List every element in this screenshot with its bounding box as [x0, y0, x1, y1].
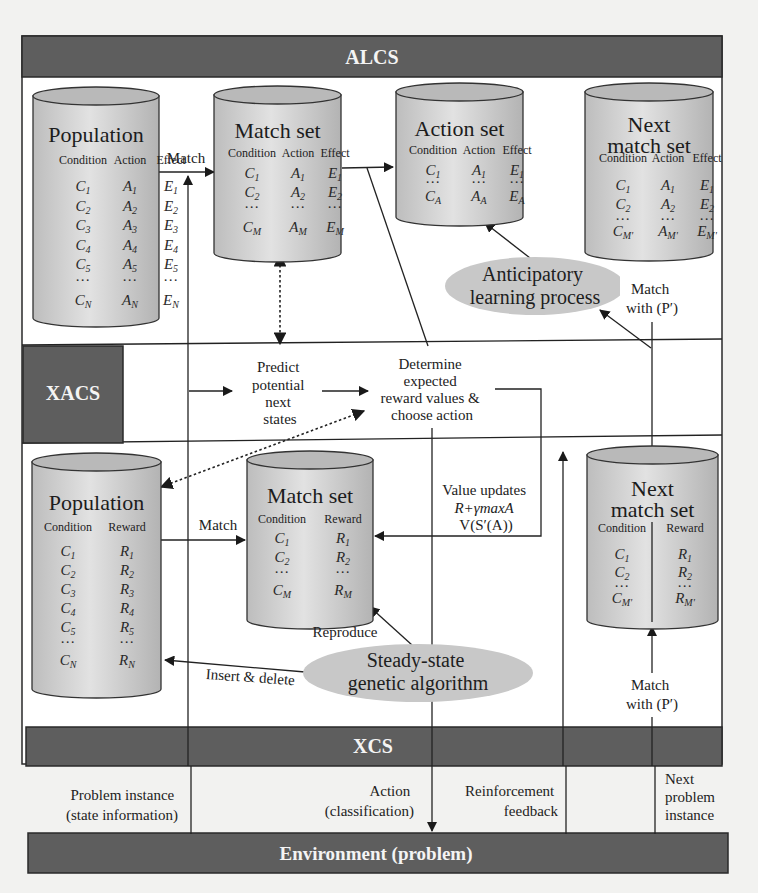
column-header: Effect — [502, 143, 532, 157]
column-header: Action — [282, 146, 315, 160]
ellipsis-cell: … — [291, 195, 304, 211]
column-header: Reward — [108, 520, 145, 534]
alcs-next-match-set-cylinder: Nextmatch setConditionActionEffectC1A1E1… — [585, 83, 722, 261]
xcs-match-set-cylinder: Match setConditionRewardC1R1C2R2……CMRM — [247, 451, 373, 629]
cylinder-title: Action set — [415, 116, 505, 141]
ellipsis-cell: … — [328, 195, 341, 211]
column-header: Condition — [258, 512, 306, 526]
column-header: Condition — [409, 143, 457, 157]
cylinder-title: Population — [48, 122, 143, 147]
ellipsis-cell: … — [76, 268, 89, 284]
column-header: Action — [652, 151, 685, 165]
cylinder-top — [247, 451, 373, 469]
ellipsis-cell: … — [616, 207, 629, 223]
genetic-algorithm-label: Steady-state genetic algorithm — [348, 649, 489, 695]
column-header: Condition — [44, 520, 92, 534]
cylinder-title: Match set — [234, 118, 320, 143]
alcs-band-label: ALCS — [345, 46, 398, 68]
cylinder-title: Population — [49, 490, 144, 515]
column-header: Condition — [599, 151, 647, 165]
ellipsis-cell: … — [678, 574, 691, 590]
column-header: Effect — [692, 151, 722, 165]
column-header: Action — [114, 153, 147, 167]
ellipsis-cell: … — [661, 207, 674, 223]
alcs-match-set-cylinder: Match setConditionActionEffectC1A1E1C2A2… — [214, 86, 350, 262]
alcs-match-label: Match — [167, 150, 206, 166]
ellipsis-cell: … — [275, 560, 288, 576]
reproduce-label: Reproduce — [313, 624, 378, 640]
environment-band-label: Environment (problem) — [280, 843, 473, 865]
ellipsis-cell: … — [426, 170, 439, 186]
cylinder-title-line2: match set — [611, 497, 695, 522]
ellipsis-cell: … — [164, 268, 177, 284]
lcs-architecture-diagram: ALCS XACS XCS Environment (problem) Prob… — [0, 0, 758, 893]
column-header: Condition — [59, 153, 107, 167]
column-header: Condition — [598, 521, 646, 535]
cylinder-top — [32, 453, 161, 471]
alcs-action-set-cylinder: Action setConditionActionEffectC1A1E1………… — [396, 83, 532, 226]
ellipsis-cell: … — [61, 630, 74, 646]
ellipsis-cell: … — [120, 630, 133, 646]
ellipsis-cell: … — [700, 207, 713, 223]
ellipsis-cell: … — [615, 574, 628, 590]
ellipsis-cell: … — [510, 170, 523, 186]
ellipsis-cell: … — [336, 560, 349, 576]
cylinder-top — [214, 86, 341, 104]
xacs-band-label: XACS — [46, 382, 100, 404]
column-header: Condition — [228, 146, 276, 160]
cylinder-top — [587, 446, 718, 464]
column-header: Effect — [320, 146, 350, 160]
column-header: Reward — [666, 521, 703, 535]
cylinder-title: Match set — [267, 483, 353, 508]
xcs-match-label: Match — [199, 517, 238, 533]
xcs-population-cylinder: PopulationConditionRewardC1R1C2R2C3R3C4R… — [32, 453, 161, 698]
problem-instance-label: Problem instance (state information) — [66, 787, 178, 824]
ellipsis-cell: … — [472, 170, 485, 186]
cylinder-top — [33, 87, 159, 105]
cylinder-top — [396, 83, 523, 101]
column-header: Action — [463, 143, 496, 157]
reinforcement-feedback-label: Reinforcement feedback — [465, 783, 558, 819]
xcs-band-label: XCS — [353, 735, 393, 757]
next-problem-instance-label: Next problem instance — [665, 771, 719, 823]
cylinder-top — [585, 83, 713, 101]
column-header: Reward — [324, 512, 361, 526]
ellipsis-cell: … — [123, 268, 136, 284]
cylinder-body — [396, 92, 523, 226]
anticipatory-learning-label: Anticipatory learning process — [470, 263, 601, 309]
action-classification-label: Action (classification) — [325, 783, 414, 820]
ellipsis-cell: … — [245, 195, 258, 211]
